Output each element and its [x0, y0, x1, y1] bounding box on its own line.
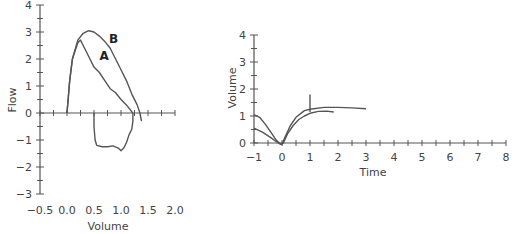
y-tick-label: 3: [25, 26, 32, 39]
y-tick-label: 1: [239, 110, 246, 123]
y-tick-label: −3: [16, 188, 32, 201]
y-axis-title: Volume: [226, 67, 239, 108]
x-tick-label: 5: [419, 151, 426, 164]
x-tick-label: −0.5: [27, 204, 54, 217]
y-tick-label: 4: [239, 29, 246, 42]
x-axis-title: Volume: [88, 220, 129, 233]
x-tick-label: 0: [279, 151, 286, 164]
y-tick-label: 3: [239, 56, 246, 69]
series-line-curve-2: [254, 111, 334, 144]
x-tick-label: 2: [335, 151, 342, 164]
x-tick-label: 1.0: [112, 204, 130, 217]
y-tick-label: 1: [25, 80, 32, 93]
y-axis-title: Flow: [6, 87, 19, 112]
x-tick-label: 7: [475, 151, 482, 164]
y-tick-label: 2: [25, 53, 32, 66]
x-tick-label: −1: [246, 151, 262, 164]
x-tick-label: 1.5: [139, 204, 157, 217]
series-line-b: [67, 31, 142, 121]
y-tick-label: 0: [25, 107, 32, 120]
volume-time-chart: 43210−1012345678TimeVolume: [226, 29, 510, 179]
curve-label-a: A: [99, 49, 109, 63]
x-tick-label: 1: [307, 151, 314, 164]
x-tick-label: 4: [391, 151, 398, 164]
y-tick-label: 0: [239, 137, 246, 150]
x-axis-title: Time: [359, 166, 387, 179]
x-tick-label: 0.5: [85, 204, 103, 217]
flow-volume-chart: 43210−1−2−3−0.50.00.51.01.52.0VolumeFlow…: [6, 0, 184, 233]
y-tick-label: 2: [239, 83, 246, 96]
y-tick-label: −2: [16, 161, 32, 174]
charts-canvas: 43210−1−2−3−0.50.00.51.01.52.0VolumeFlow…: [0, 0, 516, 234]
y-tick-label: −1: [16, 134, 32, 147]
x-tick-label: 3: [363, 151, 370, 164]
x-tick-label: 6: [447, 151, 454, 164]
x-tick-label: 0.0: [58, 204, 76, 217]
x-tick-label: 2.0: [166, 204, 184, 217]
y-tick-label: 4: [25, 0, 32, 12]
curve-label-b: B: [109, 32, 118, 46]
x-tick-label: 8: [503, 151, 510, 164]
series-line-a-inspiratory: [94, 113, 133, 151]
